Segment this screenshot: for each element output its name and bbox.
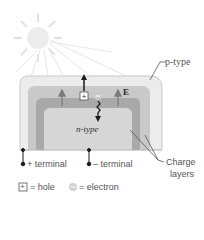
legend-electron-label: = electron bbox=[79, 183, 119, 192]
svg-text:+: + bbox=[82, 92, 87, 101]
field-label: E bbox=[123, 88, 129, 97]
n-type-label: n-type bbox=[76, 125, 99, 134]
charge-layers-label-2: layers bbox=[170, 170, 194, 179]
legend-hole-glyph: + bbox=[20, 183, 25, 191]
plus-terminal-label: + terminal bbox=[27, 160, 67, 169]
p-type-label: p-type bbox=[165, 57, 191, 67]
charge-layers-label-1: Charge bbox=[166, 158, 196, 167]
legend-hole-label: = hole bbox=[30, 183, 55, 192]
minus-terminal-label: – terminal bbox=[93, 160, 133, 169]
